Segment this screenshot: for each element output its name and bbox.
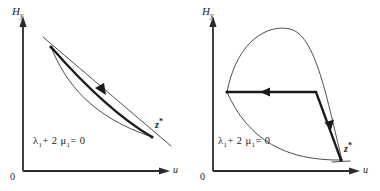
x-axis-arrowhead-icon [349,167,360,174]
horizontal-arrow-icon [260,88,270,97]
equation-middle: + 2 μ [227,135,251,146]
origin-label: 0 [200,172,205,182]
x-axis-label: u [363,165,368,175]
figure-canvas: Hy u 0 λ1+ 2 μ1= 0 z* [0,0,380,191]
panel-left: Hy u 0 λ1+ 2 μ1= 0 z* [0,0,190,191]
y-axis-label-main: H [202,5,210,17]
panel-right: Hy u 0 λ1+ 2 μ1= 0 z* [190,0,380,191]
y-axis-label: Hy [202,6,213,20]
thin-lower-arc-curve [227,92,342,160]
panel-right-drawing [190,0,380,191]
x-axis-label: u [173,165,178,175]
origin-label: 0 [10,172,15,182]
y-axis-label-sub: y [20,11,23,20]
terminal-point-label: z* [344,142,352,154]
x-axis-arrowhead-icon [159,167,170,174]
constraint-equation: λ1+ 2 μ1= 0 [33,136,85,149]
y-axis-label-main: H [12,5,20,17]
constraint-equation: λ1+ 2 μ1= 0 [218,136,270,149]
terminal-point-label: z* [155,118,163,130]
terminal-point-label-star: * [348,141,352,150]
y-axis-label: Hy [12,6,23,20]
panel-left-drawing [0,0,190,191]
upper-vertex-dot [49,45,52,48]
left-vertex-dot [225,90,228,93]
terminal-vertex-dot [150,135,153,138]
terminal-point-label-star: * [159,117,163,126]
terminal-vertex-dot [339,158,342,161]
equation-middle: + 2 μ [42,135,66,146]
thin-tangent-line [43,37,171,146]
equation-rhs: = 0 [70,135,85,146]
equation-rhs: = 0 [255,135,270,146]
y-axis-label-sub: y [210,11,213,20]
